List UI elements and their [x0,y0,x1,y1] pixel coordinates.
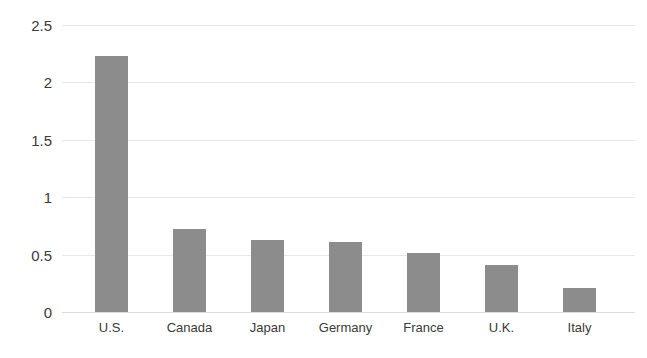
x-tick-label-canada: Canada [145,318,235,338]
y-tick-label: 1 [4,190,52,205]
y-tick-label: 1.5 [4,132,52,147]
x-tick-label-japan: Japan [223,318,313,338]
bar-uk[interactable] [485,265,518,312]
x-tick-label-italy: Italy [535,318,625,338]
bar-france[interactable] [407,253,440,312]
y-tick-label: 2 [4,75,52,90]
y-axis: 2.5 2 1.5 1 0.5 0 [0,25,52,312]
bar-chart: 2.5 2 1.5 1 0.5 0 U.S. Canada Japan Germ… [0,0,647,358]
x-tick-label-uk: U.K. [457,318,547,338]
x-tick-label-germany: Germany [301,318,391,338]
bar-japan[interactable] [251,240,284,312]
y-tick-label: 0.5 [4,247,52,262]
y-tick-label: 2.5 [4,18,52,33]
x-axis: U.S. Canada Japan Germany France U.K. It… [62,318,635,344]
axis-baseline [62,312,635,313]
bars-layer [62,25,635,312]
bar-canada[interactable] [173,229,206,312]
y-tick-label: 0 [4,305,52,320]
x-tick-label-france: France [379,318,469,338]
bar-germany[interactable] [329,242,362,312]
bar-us[interactable] [95,56,128,312]
x-tick-label-us: U.S. [67,318,157,338]
bar-italy[interactable] [563,288,596,312]
